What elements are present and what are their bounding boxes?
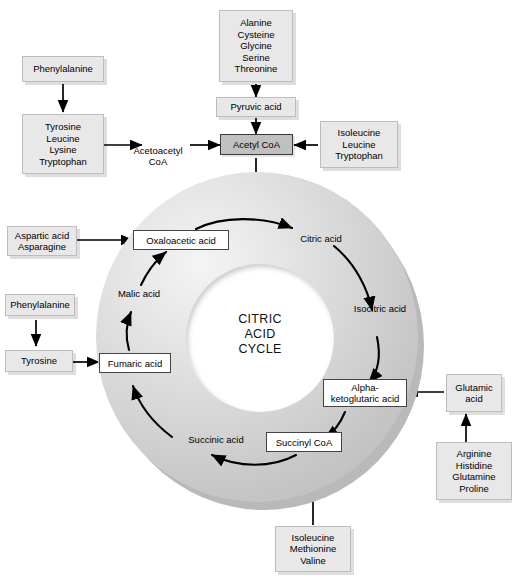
- node-phenylalanine-top[interactable]: Phenylalanine: [22, 56, 104, 82]
- cycle-node-succinic-acid: Succinic acid: [177, 434, 255, 446]
- node-phenylalanine-left[interactable]: Phenylalanine: [5, 294, 75, 316]
- node-pyruvic-acid-label: Pyruvic acid: [230, 101, 281, 113]
- cycle-node-oxaloacetic-acid-label: Oxaloacetic acid: [146, 235, 216, 246]
- node-alanine-cysteine-glycine-serine-threonine[interactable]: Alanine Cysteine Glycine Serine Threonin…: [219, 10, 293, 82]
- node-isoleucine-leucine-tryptophan[interactable]: Isoleucine Leucine Tryptophan: [320, 121, 398, 168]
- cycle-node-malic-acid-label: Malic acid: [118, 288, 160, 299]
- node-isoleucine-bottom-label: Isoleucine Methionine Valine: [290, 532, 336, 567]
- node-arginine-group-label: Arginine Histidine Glutamine Proline: [452, 448, 495, 494]
- node-pyruvic-acid[interactable]: Pyruvic acid: [216, 97, 296, 117]
- node-acetoacetyl-coa-label: Acetoacetyl CoA: [133, 145, 182, 168]
- cycle-node-malic-acid: Malic acid: [106, 288, 172, 300]
- cycle-node-succinyl-coa[interactable]: Succinyl CoA: [266, 432, 342, 452]
- cycle-node-citric-acid-label: Citric acid: [300, 233, 342, 244]
- node-acetyl-coa[interactable]: Acetyl CoA: [220, 134, 293, 155]
- node-acetyl-coa-label: Acetyl CoA: [233, 139, 280, 150]
- node-phenylalanine-left-label: Phenylalanine: [10, 299, 70, 311]
- cycle-node-alpha-ketoglutaric-acid[interactable]: Alpha-ketoglutaric acid: [323, 379, 407, 407]
- node-tyrosine-group-label: Tyrosine Leucine Lysine Tryptophan: [39, 121, 87, 167]
- cycle-node-isocitric-acid-label: Isocitric acid: [354, 303, 406, 314]
- arrow-succinylcoa-to-succinic: [212, 455, 296, 465]
- node-aspartic-acid-asparagine[interactable]: Aspartic acid Asparagine: [7, 226, 77, 256]
- node-tyrosine-leucine-lysine-tryptophan[interactable]: Tyrosine Leucine Lysine Tryptophan: [22, 114, 104, 174]
- arrow-oxaloacetic-to-citric: [196, 219, 292, 229]
- cycle-node-fumaric-acid-label: Fumaric acid: [108, 358, 162, 369]
- cycle-node-alpha-ketoglutaric-acid-label: Alpha-ketoglutaric acid: [327, 382, 403, 404]
- node-isoleucine-group-label: Isoleucine Leucine Tryptophan: [335, 127, 383, 162]
- arrow-fumaric-to-malic: [127, 312, 131, 350]
- arrow-malic-to-oxaloacetic: [141, 252, 166, 285]
- cycle-node-succinyl-coa-label: Succinyl CoA: [276, 437, 333, 448]
- cycle-node-isocitric-acid: Isocitric acid: [338, 303, 422, 315]
- node-acetoacetyl-coa: Acetoacetyl CoA: [128, 133, 188, 168]
- arrow-citric-to-isocitric: [334, 246, 372, 310]
- cycle-node-oxaloacetic-acid[interactable]: Oxaloacetic acid: [133, 230, 229, 250]
- node-arginine-histidine-glutamine-proline[interactable]: Arginine Histidine Glutamine Proline: [436, 442, 512, 500]
- node-tyrosine-left-label: Tyrosine: [21, 355, 57, 367]
- cycle-node-succinic-acid-label: Succinic acid: [188, 434, 243, 445]
- node-isoleucine-methionine-valine[interactable]: Isoleucine Methionine Valine: [275, 526, 351, 572]
- node-glutamic-acid[interactable]: Glutamic acid: [446, 374, 502, 412]
- node-phenylalanine-top-label: Phenylalanine: [33, 63, 93, 75]
- node-aspartic-group-label: Aspartic acid Asparagine: [15, 230, 69, 253]
- arrow-isocitric-to-alphaketo: [369, 337, 379, 382]
- arrow-succinic-to-fumaric: [133, 386, 172, 437]
- node-tyrosine-left[interactable]: Tyrosine: [5, 350, 73, 372]
- node-alanine-group-label: Alanine Cysteine Glycine Serine Threonin…: [235, 17, 278, 75]
- cycle-node-citric-acid: Citric acid: [283, 233, 359, 245]
- cycle-node-fumaric-acid[interactable]: Fumaric acid: [99, 353, 171, 373]
- node-glutamic-acid-label: Glutamic acid: [455, 382, 492, 405]
